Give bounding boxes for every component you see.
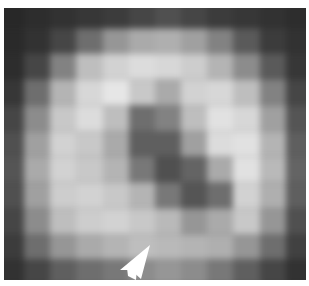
microscopy-image	[4, 8, 306, 280]
